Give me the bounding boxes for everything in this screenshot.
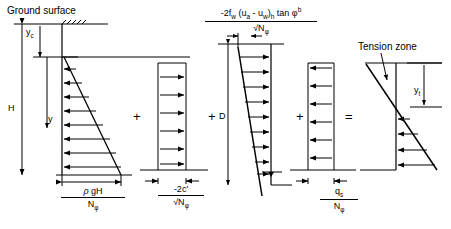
f-mid2: - u	[250, 8, 263, 18]
formula-cohesion: -2c' √Nφ	[158, 184, 204, 210]
operator-plus-3: +	[296, 110, 304, 123]
block2-rectangle	[158, 63, 186, 170]
formula-self-weight-denominator: Nφ	[61, 198, 125, 211]
formula-matric-suction: -2fw (ua - uw)h tan φb √Nφ	[205, 6, 317, 36]
f-mid1: (u	[236, 8, 247, 18]
block2-pressure-arrows	[160, 77, 184, 164]
block4-width-dimension	[296, 178, 347, 184]
c-den-sub: φ	[185, 202, 189, 209]
block3-pressure-arrows	[239, 57, 269, 174]
ground-surface-line	[14, 20, 108, 24]
formula-surcharge-denominator: Nφ	[320, 200, 358, 213]
operator-equals: =	[345, 110, 353, 123]
operator-plus-2: +	[208, 110, 216, 123]
f-prefix: -2f	[221, 8, 232, 18]
block5-pressure-line	[366, 64, 437, 170]
dimension-label-y: y	[48, 115, 53, 124]
block1-pressure-hypotenuse	[64, 57, 121, 175]
formula-surcharge-numerator: qs	[320, 186, 358, 200]
dimension-label-yt: yt	[414, 86, 420, 97]
q-sub: s	[340, 191, 343, 198]
ground-surface-label: Ground surface	[7, 6, 76, 16]
dimension-label-yc: yc	[26, 28, 34, 39]
formula-matric-suction-numerator: -2fw (ua - uw)h tan φb	[205, 6, 317, 22]
yc-sub: c	[31, 32, 34, 39]
f-den-sub: φ	[265, 28, 269, 35]
block1-pressure-arrows	[64, 69, 121, 167]
formula-matric-suction-denominator: √Nφ	[205, 22, 317, 35]
rho-den-sub: φ	[94, 204, 98, 211]
tension-zone-leader	[381, 53, 387, 80]
tension-zone-label: Tension zone	[358, 42, 417, 52]
f-den-radical: √N	[253, 23, 264, 33]
formula-self-weight: ρ gH Nφ	[61, 186, 125, 212]
yt-sub: t	[419, 90, 421, 97]
f-tail: tan	[274, 8, 292, 18]
earth-pressure-diagram: Ground surface Tension zone H yc y D yt …	[0, 0, 451, 229]
dimension-yc	[33, 26, 78, 57]
operator-plus-1: +	[133, 110, 141, 123]
c-den-radical: √N	[173, 197, 184, 207]
formula-surcharge: qs Nφ	[320, 186, 358, 214]
formula-cohesion-numerator: -2c'	[158, 184, 204, 196]
dimension-label-H: H	[8, 104, 15, 113]
q-den-sub: φ	[340, 206, 344, 213]
block4-pressure-arrows	[310, 68, 332, 158]
rho-rest: gH	[89, 186, 103, 196]
block4-rectangle	[308, 63, 334, 170]
dimension-label-D: D	[219, 112, 226, 121]
f-sup-b: b	[298, 6, 302, 13]
formula-self-weight-numerator: ρ gH	[61, 186, 125, 198]
formula-cohesion-denominator: √Nφ	[158, 196, 204, 209]
dimension-yt	[407, 63, 442, 107]
